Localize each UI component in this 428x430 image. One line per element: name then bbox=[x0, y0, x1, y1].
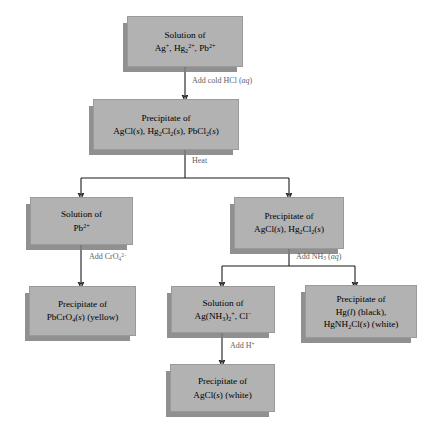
qualitative-analysis-flowchart: Solution of Ag+, Hg22+, Pb2+ Precipitate… bbox=[0, 0, 428, 430]
node-line-2: Pb2+ bbox=[73, 222, 89, 234]
node-line-1: Precipitate of bbox=[141, 112, 190, 124]
node-line-2: Hg(l) (black), bbox=[336, 306, 387, 318]
node-solution-ag-nh3-complex[interactable]: Solution of Ag(NH3)2+, Cl− bbox=[171, 286, 275, 333]
node-precipitate-hg-hgnh2cl[interactable]: Precipitate of Hg(l) (black), HgNH2Cl(s)… bbox=[305, 285, 417, 338]
edge-label-add-chromate: Add CrO42− bbox=[89, 252, 127, 262]
node-line-2: AgCl(s) (white) bbox=[193, 389, 251, 401]
node-precipitate-agcl-hg2cl2-pbcl2[interactable]: Precipitate of AgCl(s), Hg2Cl2(s), PbCl2… bbox=[93, 99, 239, 150]
node-line-1: Precipitate of bbox=[58, 298, 107, 310]
node-line-2: AgCl(s), Hg2Cl2(s), PbCl2(s) bbox=[113, 125, 219, 138]
node-solution-ag-hg-pb[interactable]: Solution of Ag+, Hg22+, Pb2+ bbox=[127, 16, 243, 67]
node-line-3: HgNH2Cl(s) (white) bbox=[324, 318, 399, 331]
node-line-2: PbCrO4(s) (yellow) bbox=[47, 311, 119, 324]
edge-label-heat: Heat bbox=[192, 156, 207, 165]
edge-label-add-cold-hcl: Add cold HCl (aq) bbox=[192, 76, 252, 85]
node-line-1: Solution of bbox=[61, 208, 102, 220]
node-line-1: Solution of bbox=[164, 29, 205, 41]
node-line-2: Ag(NH3)2+, Cl− bbox=[195, 310, 252, 323]
edge-label-add-ammonia: Add NH3 (aq) bbox=[296, 252, 341, 261]
node-precipitate-pbcro4-yellow[interactable]: Precipitate of PbCrO4(s) (yellow) bbox=[29, 286, 136, 336]
node-line-2: AgCl(s), Hg2Cl2(s) bbox=[254, 223, 324, 236]
node-line-1: Solution of bbox=[202, 297, 243, 309]
node-precipitate-agcl-hg2cl2[interactable]: Precipitate of AgCl(s), Hg2Cl2(s) bbox=[234, 197, 344, 249]
node-line-2: Ag+, Hg22+, Pb2+ bbox=[155, 42, 216, 55]
node-line-1: Precipitate of bbox=[336, 293, 385, 305]
node-line-1: Precipitate of bbox=[264, 210, 313, 222]
node-line-1: Precipitate of bbox=[198, 375, 247, 387]
node-solution-pb[interactable]: Solution of Pb2+ bbox=[30, 197, 133, 245]
edge-label-add-acid: Add H+ bbox=[230, 341, 255, 350]
node-precipitate-agcl-white[interactable]: Precipitate of AgCl(s) (white) bbox=[170, 364, 275, 412]
